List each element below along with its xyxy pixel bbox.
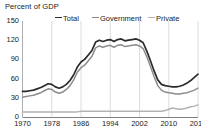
x-axis-tick-2018: 2018 [183, 119, 201, 128]
y-axis-tick-30: 30 [1, 93, 19, 102]
y-axis-tick-90: 90 [1, 54, 19, 63]
y-axis-tick-150: 150 [1, 16, 19, 25]
y-axis-tick-60: 60 [1, 74, 19, 83]
x-axis-tick-2002: 2002 [125, 119, 155, 128]
gridlines [52, 21, 198, 117]
x-axis-tick-1986: 1986 [66, 119, 96, 128]
x-axis-tick-1970: 1970 [8, 119, 38, 128]
x-axis-tick-1994: 1994 [95, 119, 125, 128]
x-axis-tick-2010: 2010 [154, 119, 184, 128]
plot-area [0, 0, 201, 133]
y-axis-tick-120: 120 [1, 35, 19, 44]
x-axis-tick-1978: 1978 [37, 119, 67, 128]
chart-container: Percent of GDP Total Government Private … [0, 0, 201, 133]
